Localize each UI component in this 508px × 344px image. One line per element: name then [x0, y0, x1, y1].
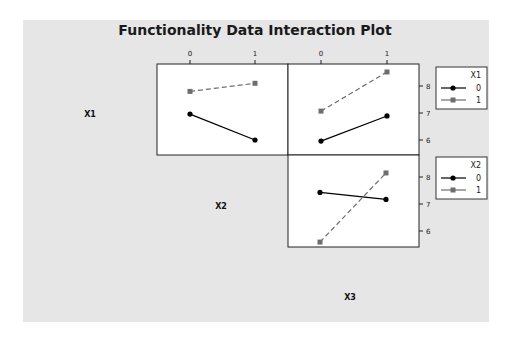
circle-marker-icon [317, 190, 322, 195]
square-marker-icon [385, 69, 390, 74]
y-tick-label: 8 [426, 174, 430, 182]
interaction-panel [288, 155, 419, 247]
interaction-panel [288, 64, 419, 155]
y-tick-label: 6 [426, 228, 431, 236]
legend-entry: 0 [476, 84, 481, 93]
circle-marker-icon [450, 175, 455, 180]
x-tick-label: 0 [319, 50, 323, 58]
circle-marker-icon [187, 111, 192, 116]
circle-marker-icon [318, 138, 323, 143]
legend-entry: 1 [476, 186, 481, 195]
circle-marker-icon [383, 197, 388, 202]
circle-marker-icon [252, 137, 257, 142]
factor-label-x2: X2 [215, 202, 227, 211]
square-marker-icon [451, 188, 456, 193]
square-marker-icon [188, 89, 193, 94]
legend-x2: X2 0 1 [436, 157, 487, 199]
y-tick-label: 8 [426, 83, 430, 91]
chart-title: Functionality Data Interaction Plot [118, 22, 392, 38]
factor-label-x1: X1 [84, 110, 96, 119]
square-marker-icon [318, 240, 323, 245]
square-marker-icon [319, 109, 324, 114]
y-tick-label: 6 [426, 137, 431, 145]
square-marker-icon [253, 81, 258, 86]
legend-title: X1 [470, 71, 481, 80]
square-marker-icon [451, 98, 456, 103]
factor-label-x3: X3 [344, 293, 356, 302]
legend-x1: X1 0 1 [436, 67, 487, 109]
legend-entry: 1 [476, 96, 481, 105]
legend-entry: 0 [476, 174, 481, 183]
interaction-panel [157, 64, 288, 155]
square-marker-icon [384, 170, 389, 175]
x-tick-label: 1 [385, 50, 389, 58]
y-tick-label: 7 [426, 110, 430, 118]
x-tick-label: 0 [188, 50, 192, 58]
y-tick-label: 7 [426, 201, 430, 209]
circle-marker-icon [450, 85, 455, 90]
interaction-plot: Functionality Data Interaction Plot X1 X… [0, 0, 508, 344]
x-tick-label: 1 [253, 50, 257, 58]
legend-title: X2 [470, 161, 481, 170]
circle-marker-icon [384, 113, 389, 118]
